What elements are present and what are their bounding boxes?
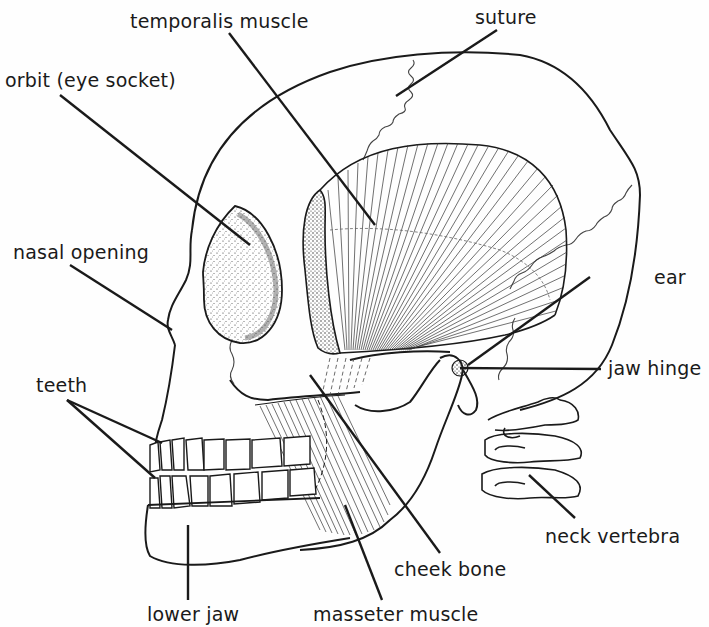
skull-diagram: temporalis muscle suture orbit (eye sock…: [0, 0, 709, 627]
label-nasal-opening: nasal opening: [13, 241, 149, 263]
neck-vertebrae: [482, 398, 581, 499]
label-orbit: orbit (eye socket): [5, 69, 176, 91]
label-cheek-bone: cheek bone: [394, 558, 506, 580]
label-suture: suture: [475, 6, 537, 28]
label-temporalis-muscle: temporalis muscle: [130, 10, 309, 32]
temporal-stipple: [303, 190, 340, 354]
label-ear: ear: [654, 266, 686, 288]
suture-lines: [230, 60, 632, 384]
label-masseter-muscle: masseter muscle: [313, 603, 479, 625]
label-lower-jaw: lower jaw: [147, 603, 239, 625]
label-neck-vertebra: neck vertebra: [545, 525, 680, 547]
label-jaw-hinge: jaw hinge: [608, 357, 701, 379]
teeth: [148, 436, 320, 508]
orbit-shape: [203, 206, 282, 343]
dashed-fibers: [322, 358, 370, 395]
label-teeth: teeth: [36, 374, 87, 396]
